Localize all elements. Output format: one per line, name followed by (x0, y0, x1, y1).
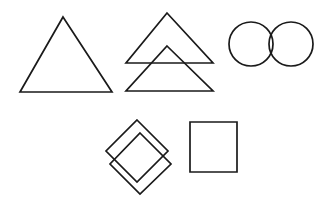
single-square-shape (190, 122, 237, 172)
left-circle-shape (229, 22, 273, 66)
right-circle-shape (269, 22, 313, 66)
single-triangle-shape (20, 17, 112, 92)
overlapping-triangles-group (126, 13, 213, 91)
overlapping-circles-group (229, 22, 313, 66)
upper-triangle-shape (126, 13, 213, 63)
geometric-shapes-drawing (0, 0, 336, 208)
lower-triangle-shape (126, 46, 213, 91)
figure-canvas (0, 0, 336, 208)
overlapping-diamonds-group (106, 120, 171, 194)
